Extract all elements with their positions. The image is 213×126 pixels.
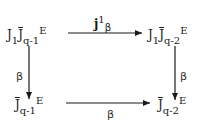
node-subscript: q-1 — [23, 35, 39, 46]
node-top-right: J1Jq-2E — [148, 26, 187, 46]
bottom-arrow-label: β — [107, 109, 114, 120]
node-top-left: J1Jq-1E — [7, 26, 46, 46]
node-bottom-right: Jq-2E — [158, 96, 186, 116]
node-bottom-left: Jq-1E — [15, 96, 43, 116]
node-text: E — [180, 25, 187, 36]
label-subscript: β — [105, 22, 111, 33]
left-arrow-label: β — [16, 71, 23, 82]
node-subscript: q-2 — [163, 105, 179, 116]
node-text: E — [179, 95, 186, 106]
node-subscript: q-1 — [20, 105, 36, 116]
node-subscript: q-2 — [164, 35, 180, 46]
top-arrow-label: j1β — [94, 15, 111, 33]
node-text: E — [36, 95, 43, 106]
right-arrow-label: β — [180, 71, 187, 82]
node-text: E — [39, 25, 46, 36]
